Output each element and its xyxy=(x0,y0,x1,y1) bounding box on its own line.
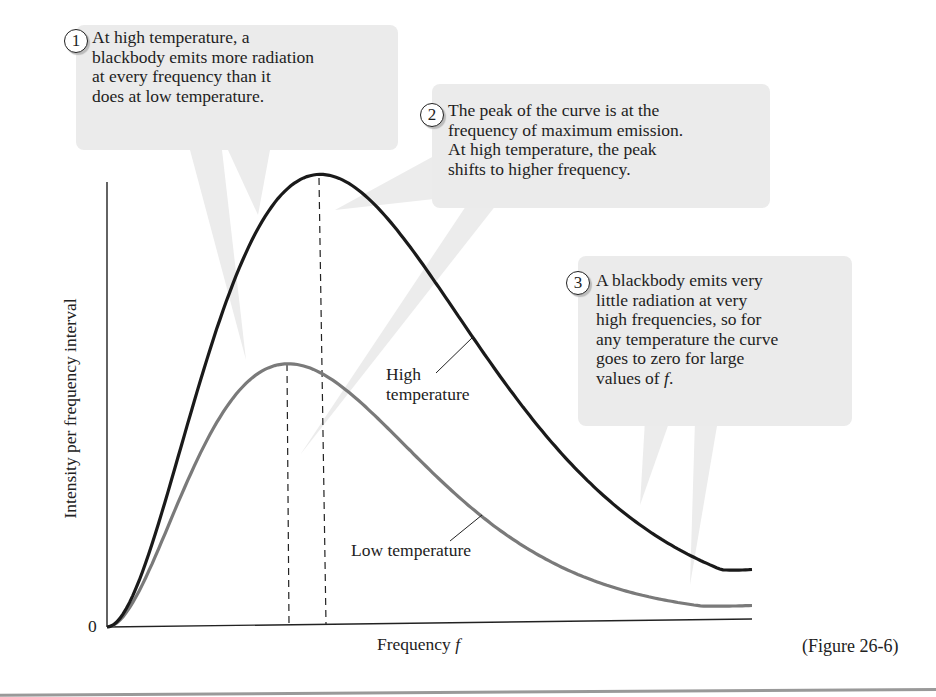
x-axis xyxy=(107,619,752,627)
callout-1: 1 At high temperature, a blackbody emits… xyxy=(76,25,398,150)
low-label-leader xyxy=(450,515,482,541)
callout-2: 2 The peak of the curve is at the freque… xyxy=(432,84,770,208)
callout-3: 3 A blackbody emits very little radiatio… xyxy=(578,256,852,426)
low-peak-dashed-line xyxy=(287,364,289,624)
callout-3-body: A blackbody emits very little radiation … xyxy=(596,270,778,388)
high-peak-dashed-line xyxy=(319,178,326,624)
y-axis-label: Intensity per frequency interval xyxy=(60,279,81,539)
callout-1-text: At high temperature, a blackbody emits m… xyxy=(92,28,314,106)
x-axis-label-text: Frequency xyxy=(377,634,455,654)
callout-2-text: The peak of the curve is at the frequenc… xyxy=(448,101,683,179)
callout-number-3: 3 xyxy=(566,271,590,295)
callout-number-2: 2 xyxy=(420,103,444,127)
callout-3-period: . xyxy=(669,368,673,388)
x-axis-label: Frequency f xyxy=(377,634,460,654)
low-temperature-label: Low temperature xyxy=(351,540,471,560)
callout-number-1: 1 xyxy=(64,29,88,53)
origin-label: 0 xyxy=(88,616,97,636)
callout-3-text: A blackbody emits very little radiation … xyxy=(596,271,778,388)
figure-label: (Figure 26-6) xyxy=(802,636,898,657)
x-axis-variable: f xyxy=(455,634,460,654)
high-temperature-label: High temperature xyxy=(386,364,470,404)
